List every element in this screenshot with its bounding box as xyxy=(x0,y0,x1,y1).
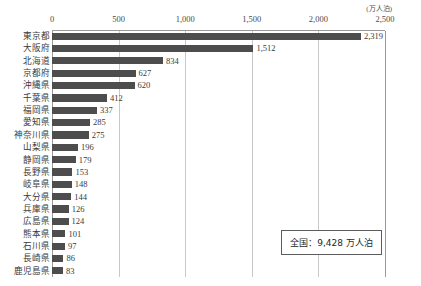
bar-value-label: 101 xyxy=(65,228,81,240)
bar-value-label: 148 xyxy=(72,178,88,190)
bar-row: 兵庫県126 xyxy=(0,203,421,215)
bar-row: 千葉県412 xyxy=(0,92,421,104)
x-tick-label: 1,000 xyxy=(176,14,195,24)
bar-value-label: 412 xyxy=(107,92,123,104)
bar-value-label: 97 xyxy=(65,240,77,252)
bar xyxy=(52,218,69,225)
bar-chart: (万人泊) 05001,0001,5002,0002,500 東京都2,319大… xyxy=(0,0,421,286)
bar xyxy=(52,156,76,163)
category-label: 沖縄県 xyxy=(0,79,50,91)
bar-value-label: 2,319 xyxy=(361,30,383,42)
bar-value-label: 1,512 xyxy=(253,42,275,54)
category-label: 山梨県 xyxy=(0,141,50,153)
bar xyxy=(52,181,72,188)
category-label: 北海道 xyxy=(0,55,50,67)
bar xyxy=(52,70,136,77)
bar-value-label: 285 xyxy=(90,116,106,128)
category-label: 愛知県 xyxy=(0,116,50,128)
bar xyxy=(52,168,72,175)
bar-row: 静岡県179 xyxy=(0,154,421,166)
total-annotation-box: 全国：9,428 万人泊 xyxy=(281,230,382,255)
category-label: 大阪府 xyxy=(0,42,50,54)
bar-row: 岐阜県148 xyxy=(0,178,421,190)
category-label: 千葉県 xyxy=(0,92,50,104)
x-tick-label: 2,000 xyxy=(309,14,328,24)
axis-unit-label: (万人泊) xyxy=(366,3,392,13)
bar xyxy=(52,243,65,250)
category-label: 兵庫県 xyxy=(0,203,50,215)
bar-row: 沖縄県620 xyxy=(0,79,421,91)
category-label: 東京都 xyxy=(0,30,50,42)
bar xyxy=(52,131,89,138)
x-tick-label: 2,500 xyxy=(375,14,394,24)
bar-row: 大阪府1,512 xyxy=(0,42,421,54)
category-label: 広島県 xyxy=(0,215,50,227)
bar xyxy=(52,267,63,274)
bar-value-label: 83 xyxy=(63,265,75,277)
x-axis-tick-labels: 05001,0001,5002,0002,500 xyxy=(52,14,385,27)
bar-row: 愛知県285 xyxy=(0,116,421,128)
bar-value-label: 620 xyxy=(135,79,151,91)
category-label: 鹿児島県 xyxy=(0,265,50,277)
bar-value-label: 275 xyxy=(89,129,105,141)
x-tick-label: 500 xyxy=(112,14,125,24)
category-label: 神奈川県 xyxy=(0,129,50,141)
bar-value-label: 834 xyxy=(163,55,179,67)
bar xyxy=(52,193,71,200)
bar xyxy=(52,230,65,237)
bar xyxy=(52,255,63,262)
category-label: 静岡県 xyxy=(0,154,50,166)
bar-row: 北海道834 xyxy=(0,55,421,67)
bar xyxy=(52,107,97,114)
x-tick-label: 1,500 xyxy=(242,14,261,24)
bar xyxy=(52,144,78,151)
bar-value-label: 153 xyxy=(72,166,88,178)
bar xyxy=(52,57,163,64)
bar-row: 京都府627 xyxy=(0,67,421,79)
bar xyxy=(52,82,135,89)
bar-value-label: 144 xyxy=(71,191,87,203)
bar-value-label: 126 xyxy=(69,203,85,215)
bar-row: 広島県124 xyxy=(0,215,421,227)
bar-value-label: 86 xyxy=(63,252,75,264)
category-label: 石川県 xyxy=(0,240,50,252)
bar-value-label: 337 xyxy=(97,104,113,116)
category-label: 福岡県 xyxy=(0,104,50,116)
bar-row: 神奈川県275 xyxy=(0,129,421,141)
bar xyxy=(52,205,69,212)
category-label: 長野県 xyxy=(0,166,50,178)
bar-value-label: 179 xyxy=(76,154,92,166)
bar xyxy=(52,119,90,126)
category-label: 熊本県 xyxy=(0,228,50,240)
category-label: 京都府 xyxy=(0,67,50,79)
category-label: 岐阜県 xyxy=(0,178,50,190)
bar-row: 大分県144 xyxy=(0,191,421,203)
bar-value-label: 627 xyxy=(136,67,152,79)
bar xyxy=(52,45,253,52)
bar-value-label: 196 xyxy=(78,141,94,153)
bar xyxy=(52,94,107,101)
category-label: 長崎県 xyxy=(0,252,50,264)
bar xyxy=(52,33,361,40)
bar-row: 長野県153 xyxy=(0,166,421,178)
bar-row: 東京都2,319 xyxy=(0,30,421,42)
x-tick-label: 0 xyxy=(50,14,54,24)
category-label: 大分県 xyxy=(0,191,50,203)
bar-row: 福岡県337 xyxy=(0,104,421,116)
bar-value-label: 124 xyxy=(69,215,85,227)
bar-row: 山梨県196 xyxy=(0,141,421,153)
bar-row: 鹿児島県83 xyxy=(0,265,421,277)
